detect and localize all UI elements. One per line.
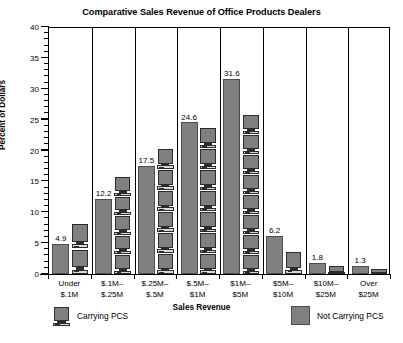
x-axis-category-line: $.5M–: [176, 279, 219, 290]
computer-monitor-icon: [157, 169, 174, 190]
legend-item-carrying-pcs: Carrying PCS: [53, 306, 128, 326]
y-axis-minor-tick: [44, 131, 49, 132]
y-axis-minor-tick: [44, 261, 49, 262]
computer-monitor-icon: [242, 114, 259, 134]
gray-swatch-icon: [291, 306, 310, 325]
y-axis-minor-tick: [44, 100, 49, 101]
plot-area: 05101520253035404.98.212.215.817.520.424…: [48, 27, 390, 274]
bar-carrying-pcs: 15.8: [114, 176, 131, 274]
computer-monitor-icon: [242, 234, 259, 254]
y-axis-minor-tick: [44, 267, 49, 268]
x-axis-category-label: Over$25M: [347, 279, 390, 300]
y-axis-minor-tick: [44, 168, 49, 169]
y-axis-minor-tick: [44, 217, 49, 218]
y-axis-minor-tick: [44, 106, 49, 107]
computer-monitor-icon: [114, 215, 131, 235]
y-axis-minor-tick: [44, 75, 49, 76]
x-axis-category-label: $.5M–$1M: [176, 279, 219, 300]
y-axis-minor-tick: [44, 199, 49, 200]
x-axis-category-line: $10M–: [305, 279, 348, 290]
computer-monitor-icon: [157, 232, 174, 253]
bar-value-label: 24.6: [181, 113, 197, 122]
bar-value-label: 1.8: [312, 253, 323, 262]
computer-monitor-icon: [242, 254, 259, 274]
y-axis-minor-tick: [44, 125, 49, 126]
x-axis-category-line: $1M: [176, 290, 219, 301]
y-axis-major-tick: [41, 211, 49, 212]
x-axis-line: [40, 274, 390, 275]
y-axis-minor-tick: [44, 143, 49, 144]
y-axis-minor-tick: [44, 205, 49, 206]
computer-monitor-icon: [242, 214, 259, 234]
computer-monitor-icon: [114, 196, 131, 216]
y-axis-tick-label: 5: [35, 239, 39, 248]
computer-monitor-icon: [200, 169, 217, 190]
bar-value-label: 6.2: [269, 226, 280, 235]
bar-not-carrying-pcs: 1.8: [309, 263, 326, 274]
x-axis-category-label: $1M–$5M: [219, 279, 262, 300]
bar-not-carrying-pcs: 6.2: [266, 236, 283, 274]
y-axis-minor-tick: [44, 236, 49, 237]
y-axis-minor-tick: [44, 193, 49, 194]
computer-monitor-icon: [242, 194, 259, 214]
y-axis-tick-label: 10: [30, 208, 39, 217]
y-axis-minor-tick: [44, 63, 49, 64]
computer-monitor-icon: [157, 253, 174, 274]
bar-value-label: 17.5: [139, 156, 155, 165]
x-axis-category-line: $25M: [305, 290, 348, 301]
computer-monitor-icon: [200, 190, 217, 211]
computer-monitor-icon: [285, 251, 302, 274]
y-axis-minor-tick: [44, 51, 49, 52]
category-divider: [220, 28, 221, 275]
x-axis-category-line: $.5M: [134, 290, 177, 301]
bar-value-label: 4.9: [55, 234, 66, 243]
x-axis-category-line: $5M: [219, 290, 262, 301]
bar-not-carrying-pcs: 31.6: [223, 79, 240, 274]
y-axis-minor-tick: [44, 254, 49, 255]
x-axis-category-line: $.1M–: [91, 279, 134, 290]
category-divider: [348, 28, 349, 275]
computer-monitor-icon: [200, 211, 217, 232]
y-axis-tick-label: 15: [30, 177, 39, 186]
x-axis-category-label: $5M–$10M: [262, 279, 305, 300]
bar-value-label: 31.6: [224, 69, 240, 78]
x-axis-category-label: $.25M–$.5M: [134, 279, 177, 300]
x-axis-category-line: $25M: [347, 290, 390, 301]
computer-monitor-icon: [53, 306, 70, 326]
y-axis-minor-tick: [44, 187, 49, 188]
computer-monitor-icon: [157, 190, 174, 211]
bar-not-carrying-pcs: 4.9: [52, 244, 69, 274]
bar-carrying-pcs: 23.7: [200, 128, 217, 274]
computer-monitor-icon: [200, 149, 217, 170]
legend-item-not-carrying-pcs: Not Carrying PCS: [291, 306, 384, 325]
computer-monitor-icon: [157, 211, 174, 232]
x-axis-tick: [390, 274, 391, 279]
legend-label-carrying-pcs: Carrying PCS: [77, 311, 128, 321]
legend-label-not-carrying-pcs: Not Carrying PCS: [317, 311, 384, 321]
computer-monitor-icon: [200, 253, 217, 274]
y-axis-minor-tick: [44, 82, 49, 83]
y-axis-minor-tick: [44, 224, 49, 225]
x-axis-category-label: Under$.1M: [48, 279, 91, 300]
y-axis-tick-label: 25: [30, 115, 39, 124]
computer-monitor-icon: [200, 232, 217, 253]
y-axis-minor-tick: [44, 69, 49, 70]
bar-carrying-pcs: 20.4: [157, 148, 174, 274]
y-axis-major-tick: [41, 180, 49, 181]
y-axis-major-tick: [41, 88, 49, 89]
y-axis-minor-tick: [44, 38, 49, 39]
bar-carrying-pcs: 1.3: [328, 266, 345, 274]
x-axis-tick: [48, 274, 49, 279]
x-axis-category-line: $1M–: [219, 279, 262, 290]
computer-monitor-icon: [71, 249, 88, 274]
computer-monitor-icon: [157, 148, 174, 169]
y-axis-major-tick: [41, 149, 49, 150]
category-divider: [92, 28, 93, 275]
x-axis-category-line: $.25M: [91, 290, 134, 301]
y-axis-tick-label: 40: [30, 23, 39, 32]
bar-not-carrying-pcs: 1.3: [352, 266, 369, 274]
x-axis-category-line: $10M: [262, 290, 305, 301]
computer-monitor-icon: [114, 255, 131, 275]
y-axis-minor-tick: [44, 162, 49, 163]
category-divider: [306, 28, 307, 275]
